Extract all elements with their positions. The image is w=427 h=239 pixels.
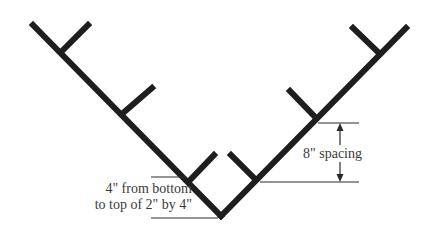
- left-branch-top: [62, 25, 88, 51]
- left-branch-bottom: [191, 155, 214, 179]
- right-branch-top: [353, 28, 378, 52]
- bottom-offset-line1: 4" from bottom: [88, 181, 192, 197]
- arrow-down-icon: [337, 174, 344, 182]
- right-branch-middle: [290, 91, 315, 117]
- arrow-up-icon: [337, 123, 344, 131]
- spacing-label: 8" spacing: [302, 146, 363, 162]
- right-main-beam: [221, 28, 406, 216]
- bottom-offset-line2: to top of 2" by 4": [88, 197, 192, 213]
- bottom-offset-label: 4" from bottom to top of 2" by 4": [88, 181, 192, 213]
- left-branch-middle: [123, 88, 152, 113]
- right-branch-bottom: [231, 155, 256, 180]
- v-frame-diagram: [0, 0, 427, 239]
